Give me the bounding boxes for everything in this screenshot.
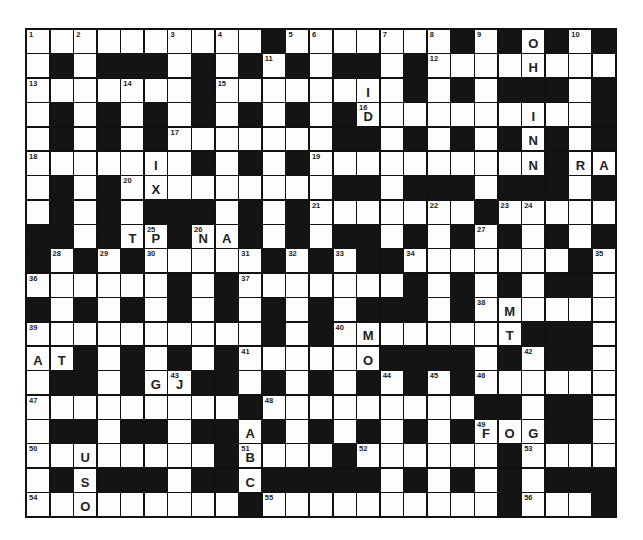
crossword-cell[interactable] (357, 493, 379, 516)
crossword-cell[interactable] (334, 396, 356, 419)
crossword-cell[interactable] (239, 176, 261, 199)
crossword-cell[interactable] (239, 323, 261, 346)
crossword-cell[interactable] (522, 249, 544, 272)
crossword-cell[interactable] (569, 444, 591, 467)
crossword-cell[interactable] (192, 298, 214, 321)
crossword-cell[interactable] (428, 493, 450, 516)
crossword-cell[interactable] (145, 444, 167, 467)
crossword-cell[interactable] (546, 493, 568, 516)
crossword-cell[interactable] (239, 371, 261, 394)
crossword-cell[interactable] (286, 396, 308, 419)
crossword-cell[interactable]: 43J (168, 371, 190, 394)
crossword-cell[interactable] (286, 274, 308, 297)
crossword-cell[interactable] (121, 152, 143, 175)
crossword-cell[interactable] (74, 396, 96, 419)
crossword-cell[interactable]: I (522, 103, 544, 126)
crossword-cell[interactable] (428, 298, 450, 321)
crossword-cell[interactable] (121, 396, 143, 419)
crossword-cell[interactable] (593, 347, 615, 370)
crossword-cell[interactable] (334, 371, 356, 394)
crossword-cell[interactable] (239, 30, 261, 53)
crossword-cell[interactable] (451, 249, 473, 272)
crossword-cell[interactable]: 33 (334, 249, 356, 272)
crossword-cell[interactable] (145, 396, 167, 419)
crossword-cell[interactable] (334, 493, 356, 516)
crossword-cell[interactable] (357, 396, 379, 419)
crossword-cell[interactable] (569, 371, 591, 394)
crossword-cell[interactable] (310, 493, 332, 516)
crossword-cell[interactable] (546, 444, 568, 467)
crossword-cell[interactable] (569, 128, 591, 151)
crossword-cell[interactable] (27, 420, 49, 443)
crossword-cell[interactable]: 22 (428, 201, 450, 224)
crossword-cell[interactable]: R (569, 152, 591, 175)
crossword-cell[interactable]: 9 (475, 30, 497, 53)
crossword-cell[interactable] (381, 396, 403, 419)
crossword-cell[interactable] (593, 444, 615, 467)
crossword-cell[interactable]: X (145, 176, 167, 199)
crossword-cell[interactable] (522, 469, 544, 492)
crossword-cell[interactable] (145, 30, 167, 53)
crossword-cell[interactable] (310, 103, 332, 126)
crossword-cell[interactable] (168, 444, 190, 467)
crossword-cell[interactable] (286, 371, 308, 394)
crossword-cell[interactable] (475, 274, 497, 297)
crossword-cell[interactable] (404, 103, 426, 126)
crossword-cell[interactable] (381, 493, 403, 516)
crossword-cell[interactable] (98, 420, 120, 443)
crossword-cell[interactable] (428, 396, 450, 419)
crossword-cell[interactable] (286, 420, 308, 443)
crossword-cell[interactable] (499, 152, 521, 175)
crossword-cell[interactable] (286, 493, 308, 516)
crossword-cell[interactable] (428, 152, 450, 175)
crossword-cell[interactable]: 4 (216, 30, 238, 53)
crossword-cell[interactable] (404, 323, 426, 346)
crossword-cell[interactable]: I (357, 79, 379, 102)
crossword-cell[interactable]: C (239, 469, 261, 492)
crossword-cell[interactable]: 21 (310, 201, 332, 224)
crossword-cell[interactable] (216, 128, 238, 151)
crossword-cell[interactable] (475, 79, 497, 102)
crossword-cell[interactable]: 28 (51, 249, 73, 272)
crossword-cell[interactable] (168, 420, 190, 443)
crossword-cell[interactable] (475, 54, 497, 77)
crossword-cell[interactable]: O (499, 420, 521, 443)
crossword-cell[interactable] (192, 347, 214, 370)
crossword-cell[interactable]: S (74, 469, 96, 492)
crossword-cell[interactable] (263, 79, 285, 102)
crossword-cell[interactable] (334, 420, 356, 443)
crossword-cell[interactable] (428, 274, 450, 297)
crossword-cell[interactable]: 47 (27, 396, 49, 419)
crossword-cell[interactable] (593, 298, 615, 321)
crossword-cell[interactable] (522, 274, 544, 297)
crossword-cell[interactable] (98, 493, 120, 516)
crossword-cell[interactable] (428, 79, 450, 102)
crossword-cell[interactable]: T (51, 347, 73, 370)
crossword-cell[interactable]: 23 (499, 201, 521, 224)
crossword-cell[interactable]: O (74, 493, 96, 516)
crossword-cell[interactable] (286, 79, 308, 102)
crossword-cell[interactable] (593, 274, 615, 297)
crossword-cell[interactable] (145, 79, 167, 102)
crossword-cell[interactable] (381, 420, 403, 443)
crossword-cell[interactable] (51, 298, 73, 321)
crossword-cell[interactable] (286, 176, 308, 199)
crossword-cell[interactable] (475, 103, 497, 126)
crossword-cell[interactable]: M (357, 323, 379, 346)
crossword-cell[interactable] (569, 79, 591, 102)
crossword-cell[interactable]: 48 (263, 396, 285, 419)
crossword-cell[interactable]: 55 (263, 493, 285, 516)
crossword-cell[interactable]: 12 (428, 54, 450, 77)
crossword-cell[interactable] (357, 152, 379, 175)
crossword-cell[interactable] (98, 444, 120, 467)
crossword-cell[interactable] (593, 201, 615, 224)
crossword-cell[interactable] (145, 298, 167, 321)
crossword-cell[interactable]: 8 (428, 30, 450, 53)
crossword-cell[interactable]: A (593, 152, 615, 175)
crossword-cell[interactable] (74, 79, 96, 102)
crossword-cell[interactable] (145, 274, 167, 297)
crossword-cell[interactable]: O (357, 347, 379, 370)
crossword-cell[interactable] (192, 444, 214, 467)
crossword-cell[interactable] (74, 201, 96, 224)
crossword-cell[interactable] (216, 176, 238, 199)
